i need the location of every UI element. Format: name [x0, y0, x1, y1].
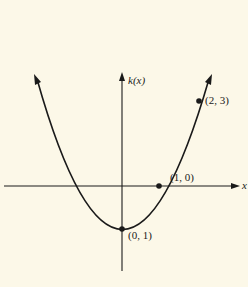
point-label-2-3: (2, 3)	[205, 95, 229, 106]
x-axis-label: x	[242, 180, 247, 191]
parabola-graph	[0, 0, 248, 287]
curve-right-arrow-icon	[205, 74, 212, 85]
point-label-0-1: (0, 1)	[128, 230, 152, 241]
point-1-0	[156, 183, 162, 189]
x-axis-arrow-icon	[231, 183, 240, 189]
y-axis-label: k(x)	[128, 75, 145, 86]
point-label-1-0: (1, 0)	[170, 172, 194, 183]
y-axis-arrow-icon	[119, 72, 125, 81]
point-2-3	[196, 98, 202, 104]
curve-left-arrow-icon	[34, 74, 41, 85]
parabola-curve	[37, 79, 209, 230]
point-0-1	[119, 226, 125, 232]
